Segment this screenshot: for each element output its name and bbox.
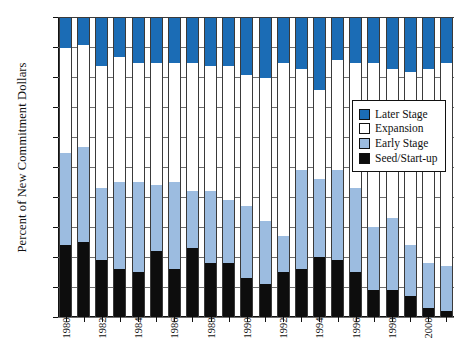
bar-segment-early-stage <box>332 170 343 260</box>
x-tick-mark <box>446 317 447 322</box>
bar-1980[interactable] <box>59 17 72 317</box>
bar-segment-expansion <box>332 60 343 171</box>
x-tick-label: 1984 <box>134 308 145 348</box>
x-tick-label: 1990 <box>243 308 254 348</box>
bar-1986[interactable] <box>168 17 181 317</box>
bar-segment-expansion <box>260 78 271 222</box>
legend-label-expansion: Expansion <box>375 122 424 135</box>
bar-segment-seed-start-up <box>78 242 89 317</box>
bar-segment-later-stage <box>223 18 234 66</box>
bar-segment-seed-start-up <box>151 251 162 317</box>
bar-segment-seed-start-up <box>260 284 271 317</box>
y-axis-title: Percent of New Commitment Dollars <box>15 8 30 308</box>
bar-segment-early-stage <box>241 206 252 278</box>
bar-segment-expansion <box>114 57 125 183</box>
bar-segment-early-stage <box>314 179 325 257</box>
x-tick-label: 2000 <box>424 308 435 348</box>
legend-label-later-stage: Later Stage <box>375 108 428 121</box>
x-axis: 1980198219841986198819901992199419961998… <box>58 317 454 356</box>
bar-segment-early-stage <box>133 182 144 272</box>
bar-segment-expansion <box>187 63 198 192</box>
legend: Later Stage Expansion Early Stage Seed/S… <box>352 100 446 172</box>
bar-segment-expansion <box>133 63 144 183</box>
bar-segment-later-stage <box>60 18 71 48</box>
bar-segment-later-stage <box>278 18 289 63</box>
bar-1989[interactable] <box>222 17 235 317</box>
legend-label-seed-start-up: Seed/Start-up <box>375 152 438 165</box>
bar-segment-later-stage <box>169 18 180 63</box>
x-tick-label: 1992 <box>279 308 290 348</box>
x-tick-mark <box>192 317 193 322</box>
legend-swatch-early-stage-icon <box>359 138 370 149</box>
bar-segment-early-stage <box>187 191 198 248</box>
bar-1985[interactable] <box>150 17 163 317</box>
bar-segment-later-stage <box>241 18 252 75</box>
bar-1993[interactable] <box>295 17 308 317</box>
bar-1992[interactable] <box>277 17 290 317</box>
bar-segment-later-stage <box>114 18 125 57</box>
bar-segment-early-stage <box>423 263 434 308</box>
bar-segment-later-stage <box>368 18 379 63</box>
x-tick-mark <box>410 317 411 322</box>
bar-segment-seed-start-up <box>114 269 125 317</box>
x-tick-label: 1988 <box>207 308 218 348</box>
bar-segment-later-stage <box>151 18 162 63</box>
bar-segment-early-stage <box>60 153 71 246</box>
bar-segment-later-stage <box>405 18 416 72</box>
bar-segment-expansion <box>205 66 216 192</box>
x-tick-label: 1994 <box>315 308 326 348</box>
bar-segment-seed-start-up <box>60 245 71 317</box>
legend-item-seed-start-up[interactable]: Seed/Start-up <box>359 152 438 165</box>
bar-1984[interactable] <box>132 17 145 317</box>
legend-item-expansion[interactable]: Expansion <box>359 122 438 135</box>
bar-1982[interactable] <box>95 17 108 317</box>
legend-swatch-seed-start-up-icon <box>359 153 370 164</box>
x-tick-label: 1980 <box>62 308 73 348</box>
bar-segment-seed-start-up <box>296 269 307 317</box>
bar-segment-expansion <box>96 66 107 189</box>
legend-item-early-stage[interactable]: Early Stage <box>359 137 438 150</box>
legend-swatch-expansion-icon <box>359 123 370 134</box>
bar-segment-expansion <box>314 90 325 180</box>
x-tick-mark <box>156 317 157 322</box>
legend-label-early-stage: Early Stage <box>375 137 428 150</box>
bar-segment-later-stage <box>78 18 89 45</box>
bar-1991[interactable] <box>259 17 272 317</box>
x-tick-mark <box>229 317 230 322</box>
x-tick-mark <box>374 317 375 322</box>
bar-segment-expansion <box>241 75 252 207</box>
bar-segment-expansion <box>223 66 234 201</box>
x-tick-mark <box>265 317 266 322</box>
bar-1990[interactable] <box>240 17 253 317</box>
bar-segment-seed-start-up <box>405 296 416 317</box>
bar-1983[interactable] <box>113 17 126 317</box>
bar-segment-seed-start-up <box>368 290 379 317</box>
x-tick-label: 1986 <box>170 308 181 348</box>
stacked-bar-chart: Percent of New Commitment Dollars 0%10%2… <box>0 0 464 356</box>
bar-segment-later-stage <box>441 18 452 63</box>
bar-segment-early-stage <box>441 266 452 311</box>
bar-1994[interactable] <box>313 17 326 317</box>
bar-segment-expansion <box>60 48 71 153</box>
bar-segment-later-stage <box>260 18 271 78</box>
bar-segment-early-stage <box>350 188 361 272</box>
bar-segment-expansion <box>169 63 180 183</box>
bar-1995[interactable] <box>331 17 344 317</box>
bar-1981[interactable] <box>77 17 90 317</box>
bar-segment-later-stage <box>96 18 107 66</box>
bar-1987[interactable] <box>186 17 199 317</box>
x-tick-mark <box>301 317 302 322</box>
x-tick-mark <box>84 317 85 322</box>
bar-segment-expansion <box>278 63 289 236</box>
bar-1988[interactable] <box>204 17 217 317</box>
x-tick-label: 1998 <box>388 308 399 348</box>
bar-segment-seed-start-up <box>332 260 343 317</box>
bar-segment-early-stage <box>405 245 416 296</box>
bar-segment-seed-start-up <box>187 248 198 317</box>
legend-item-later-stage[interactable]: Later Stage <box>359 108 438 121</box>
x-tick-label: 1982 <box>98 308 109 348</box>
bar-segment-early-stage <box>205 191 216 263</box>
bar-segment-early-stage <box>78 147 89 243</box>
bar-segment-early-stage <box>260 221 271 284</box>
bar-segment-expansion <box>151 63 162 186</box>
